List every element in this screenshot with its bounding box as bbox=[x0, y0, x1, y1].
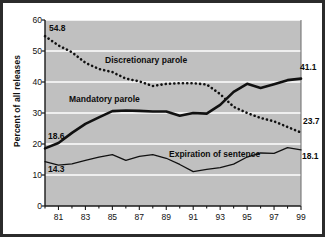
series-annotation-discretionary: Discretionary parole bbox=[105, 55, 187, 65]
series-annotation-expiration: Expiration of sentence bbox=[169, 149, 260, 159]
start-value-label-discretionary: 54.8 bbox=[49, 23, 66, 33]
figure-frame: Percent of all releases 0102030405060 81… bbox=[0, 0, 325, 237]
start-value-label-mandatory: 18.6 bbox=[48, 131, 65, 141]
end-value-label-mandatory: 41.1 bbox=[300, 62, 317, 72]
end-value-label-expiration: 18.1 bbox=[302, 151, 319, 161]
chart-plot-area: Percent of all releases 0102030405060 81… bbox=[3, 3, 322, 234]
end-value-label-discretionary: 23.7 bbox=[303, 116, 320, 126]
series-annotation-mandatory: Mandatory parole bbox=[69, 94, 140, 104]
chart-canvas bbox=[3, 3, 322, 234]
start-value-label-expiration: 14.3 bbox=[48, 164, 65, 174]
